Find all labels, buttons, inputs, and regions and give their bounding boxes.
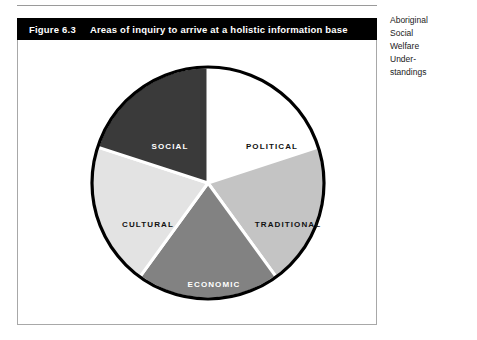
margin-note-line-1: Aboriginal xyxy=(390,14,470,27)
figure-panel: POLITICAL TRADITIONAL ECONOMIC CULTURAL … xyxy=(17,40,377,325)
page-top-rule xyxy=(17,5,377,6)
figure-titlebar: Figure 6.3 Areas of inquiry to arrive at… xyxy=(17,18,377,40)
pie-chart: POLITICAL TRADITIONAL ECONOMIC CULTURAL … xyxy=(18,40,378,325)
figure-block: Figure 6.3 Areas of inquiry to arrive at… xyxy=(17,18,377,325)
margin-running-head: Aboriginal Social Welfare Under- standin… xyxy=(390,14,470,79)
pie-label-cultural: CULTURAL xyxy=(122,220,174,229)
pie-label-social: SOCIAL xyxy=(152,142,189,151)
pie-chart-svg xyxy=(87,62,329,304)
margin-note-line-2: Social xyxy=(390,27,470,40)
margin-note-line-4: Under- xyxy=(390,53,470,66)
margin-note-line-5: standings xyxy=(390,66,470,79)
figure-caption: Areas of inquiry to arrive at a holistic… xyxy=(90,24,348,35)
figure-number: Figure 6.3 xyxy=(29,24,76,35)
margin-note-line-3: Welfare xyxy=(390,40,470,53)
pie-label-political: POLITICAL xyxy=(246,142,298,151)
pie-label-traditional: TRADITIONAL xyxy=(255,220,321,229)
pie-label-economic: ECONOMIC xyxy=(188,280,241,289)
